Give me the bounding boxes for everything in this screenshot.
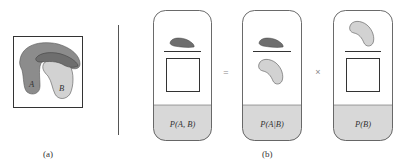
probability-diagram: A B (a) P(A, B) = P(A|B) × bbox=[0, 0, 402, 168]
region-b-shape bbox=[350, 21, 374, 46]
label-b: B bbox=[59, 83, 64, 93]
card-label: P(A, B) bbox=[169, 119, 196, 129]
card-label: P(A|B) bbox=[259, 119, 284, 129]
card-conditional: P(A|B) bbox=[243, 11, 302, 142]
panel-a: A B (a) bbox=[14, 37, 83, 160]
caption-b: (b) bbox=[262, 149, 273, 159]
card-marginal: P(B) bbox=[334, 11, 393, 142]
card-label: P(B) bbox=[354, 119, 371, 129]
region-b-shape bbox=[259, 59, 283, 84]
label-a: A bbox=[28, 79, 35, 89]
sample-space-box bbox=[347, 59, 380, 92]
times-sign: × bbox=[315, 67, 320, 77]
card-joint: P(A, B) bbox=[154, 11, 212, 142]
equals-sign: = bbox=[223, 67, 228, 77]
sample-space-box bbox=[167, 59, 200, 92]
overlap-shape bbox=[170, 38, 194, 47]
overlap-shape bbox=[259, 38, 283, 47]
caption-a: (a) bbox=[43, 149, 53, 159]
